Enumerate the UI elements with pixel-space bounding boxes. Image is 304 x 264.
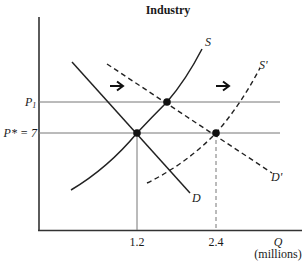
x-axis-unit: (millions)	[254, 247, 301, 261]
industry-diagram: Industry S S' D D' P1 P* = 7 1.2 2.4 Q (…	[0, 0, 304, 264]
demand-curve-d	[72, 62, 190, 193]
demand-curve-d-prime	[107, 64, 272, 173]
tick-2-4: 2.4	[209, 235, 224, 249]
label-s-prime: S'	[259, 58, 268, 72]
diagram-title: Industry	[146, 3, 191, 17]
shift-arrow-icon	[110, 82, 123, 91]
equilibrium-point-initial	[133, 129, 141, 137]
tick-1-2: 1.2	[130, 235, 145, 249]
shift-arrow-icon	[216, 82, 229, 91]
label-d: D	[191, 191, 201, 205]
label-d-prime: D'	[270, 170, 283, 184]
label-p1: P1	[24, 95, 36, 110]
equilibrium-point-short-run	[163, 98, 171, 106]
label-pstar: P* = 7	[3, 126, 38, 140]
equilibrium-point-new	[212, 129, 220, 137]
supply-curve-s-prime	[147, 68, 260, 183]
label-s: S	[205, 35, 211, 49]
